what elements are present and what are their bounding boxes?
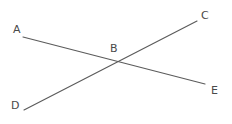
point-label-e: E <box>211 85 218 96</box>
point-label-c: C <box>201 10 209 21</box>
point-label-b: B <box>110 43 118 54</box>
point-label-d: D <box>11 100 19 111</box>
point-label-a: A <box>13 24 21 35</box>
figure-canvas <box>0 0 232 124</box>
geometry-figure: A B C D E <box>0 0 232 124</box>
line-segment-d-c <box>24 21 197 110</box>
